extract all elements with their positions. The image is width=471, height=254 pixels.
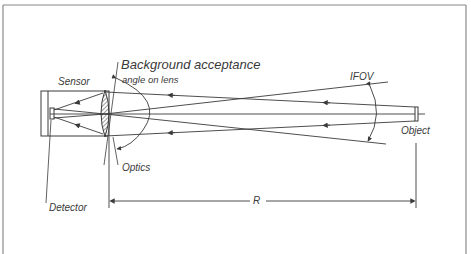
ifov-lines xyxy=(105,82,388,144)
background-acceptance-label: Background acceptance xyxy=(121,58,260,71)
ifov-arc xyxy=(368,86,377,141)
optics-label: Optics xyxy=(122,163,150,173)
acceptance-angle-arc xyxy=(116,78,150,149)
detector-label: Detector xyxy=(49,203,87,213)
internal-rays xyxy=(54,93,105,134)
range-dimension xyxy=(109,137,416,208)
detector xyxy=(50,108,54,119)
diagram-canvas: Background acceptance angle on lens Sens… xyxy=(0,0,471,254)
ifov-label: IFOV xyxy=(350,72,373,82)
angle-on-lens-label: angle on lens xyxy=(122,75,179,85)
object-target xyxy=(415,107,418,121)
range-label: R xyxy=(253,196,260,206)
sensor-label: Sensor xyxy=(58,77,90,87)
optics-leader xyxy=(113,137,118,165)
object-label: Object xyxy=(401,126,430,136)
